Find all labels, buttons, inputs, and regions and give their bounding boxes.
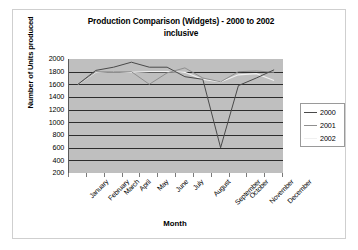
legend-line-swatch — [304, 138, 317, 139]
legend-item-label: 2001 — [320, 121, 336, 130]
x-axis-tick-label: July — [191, 178, 204, 191]
y-axis-tick-label: 1200 — [36, 106, 64, 113]
legend-item-2000[interactable]: 2000 — [301, 106, 344, 119]
y-axis-tick-label: 1600 — [36, 81, 64, 88]
y-axis-tick-labels: 200018001600140012001000800600400200 — [36, 52, 64, 180]
x-axis-tick-label: April — [138, 178, 152, 192]
x-axis-tick-label: May — [156, 178, 170, 192]
legend-line-swatch — [304, 125, 317, 126]
x-axis-tick-label: June — [174, 178, 189, 193]
y-axis-title: Number of Units produced — [26, 3, 35, 123]
y-axis-tick-label: 1400 — [36, 93, 64, 100]
plot-lines — [69, 59, 283, 173]
chart-title-line1: Production Comparison (Widgets) - 2000 t… — [46, 16, 316, 28]
x-axis-title: Month — [120, 219, 230, 228]
legend-line-swatch — [304, 112, 317, 113]
y-axis-tick-label: 800 — [36, 131, 64, 138]
chart-screenshot: Production Comparison (Widgets) - 2000 t… — [0, 0, 358, 250]
legend-item-2002[interactable]: 2002 — [301, 132, 344, 145]
chart-title: Production Comparison (Widgets) - 2000 t… — [46, 16, 316, 39]
legend-item-2001[interactable]: 2001 — [301, 119, 344, 132]
series-line-2000 — [78, 62, 274, 148]
chart-legend: 200020012002 — [300, 103, 345, 147]
plot-area — [68, 59, 283, 173]
chart-title-line2: inclusive — [46, 28, 316, 40]
x-axis-tick-label: August — [212, 178, 232, 198]
y-axis-tick-label: 2000 — [36, 55, 64, 62]
legend-item-label: 2002 — [320, 134, 336, 143]
x-axis-tick-labels: JanuaryFebruaryMarchAprilMayJuneJulyAugu… — [40, 176, 310, 220]
y-axis-tick-label: 1800 — [36, 68, 64, 75]
y-axis-tick-label: 600 — [36, 144, 64, 151]
y-axis-tick-label: 400 — [36, 157, 64, 164]
series-line-2001 — [78, 68, 274, 84]
legend-item-label: 2000 — [320, 108, 336, 117]
y-axis-tick-label: 1000 — [36, 119, 64, 126]
